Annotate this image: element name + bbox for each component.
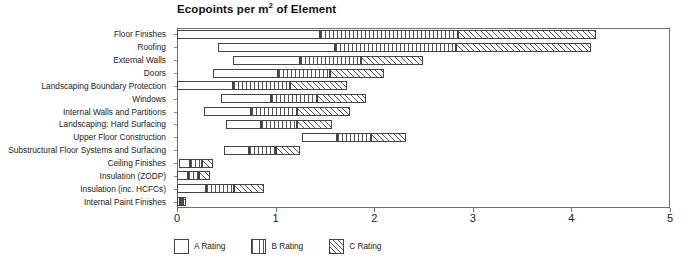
bar-segment-b-rating xyxy=(271,94,317,103)
bar-row xyxy=(177,106,670,119)
y-axis-label: Internal Walls and Partitions xyxy=(63,107,166,117)
bar-row xyxy=(177,42,670,55)
y-axis-label: Substructural Floor Systems and Surfacin… xyxy=(8,145,166,155)
y-axis-label: Insulation (inc. HCFCs) xyxy=(80,184,166,194)
y-axis-label: Landscaping Boundary Protection xyxy=(41,81,166,91)
legend-item: C Rating xyxy=(329,239,381,254)
bar-segment-b-rating xyxy=(335,43,456,52)
bar-segment-a-rating xyxy=(177,30,320,39)
legend-label: B Rating xyxy=(271,241,303,251)
bar-segment-a-rating xyxy=(233,56,300,65)
bar-segment-b-rating xyxy=(261,120,297,129)
x-axis-tick-label: 0 xyxy=(174,212,180,224)
legend-label: A Rating xyxy=(194,241,225,251)
y-axis-label: Insulation (ZODP) xyxy=(100,171,166,181)
y-axis-label: External Walls xyxy=(113,55,166,65)
y-axis-category-labels: Floor FinishesRoofingExternal WallsDoors… xyxy=(0,28,172,208)
bar-segment-c-rating xyxy=(456,43,591,52)
bar-row xyxy=(177,132,670,145)
chart-title: Ecopoints per m2 of Element xyxy=(177,3,336,15)
x-axis-tick-label: 5 xyxy=(667,212,673,224)
bar-segment-b-rating xyxy=(190,159,202,168)
y-axis-label: Doors xyxy=(144,68,166,78)
bar-row xyxy=(177,196,670,209)
bar-segment-b-rating xyxy=(278,69,330,78)
bar-segment-a-rating xyxy=(177,184,206,193)
bar-segment-c-rating xyxy=(290,81,346,90)
legend-label: C Rating xyxy=(349,241,381,251)
bar-segment-c-rating xyxy=(458,30,596,39)
x-axis-tick-label: 2 xyxy=(371,212,377,224)
x-axis-tick-label: 3 xyxy=(470,212,476,224)
bar-segment-b-rating xyxy=(249,146,276,155)
bar-segment-a-rating xyxy=(177,81,233,90)
bar-segment-c-rating xyxy=(234,184,264,193)
bar-row xyxy=(177,145,670,158)
y-axis-label: Windows xyxy=(132,94,166,104)
chart-title-suffix: of Element xyxy=(273,3,336,15)
y-axis-label: Floor Finishes xyxy=(114,29,166,39)
y-axis-label: Landscaping: Hard Surfacing xyxy=(59,119,166,129)
bar-segment-a-rating xyxy=(177,171,188,180)
bar-segment-b-rating xyxy=(320,30,458,39)
chart-legend: A RatingB RatingC Rating xyxy=(174,236,381,256)
a-rating-swatch xyxy=(174,239,189,254)
bar-segment-c-rating xyxy=(361,56,423,65)
bar-row xyxy=(177,119,670,132)
bar-segment-c-rating xyxy=(317,94,366,103)
bar-segment-c-rating xyxy=(297,107,349,116)
bar-segment-a-rating xyxy=(218,43,334,52)
y-axis-label: Internal Paint Finishes xyxy=(84,197,166,207)
bar-segment-a-rating xyxy=(221,94,270,103)
y-axis-label: Ceiling Finishes xyxy=(107,158,166,168)
bar-row xyxy=(177,170,670,183)
bar-segment-c-rating xyxy=(199,171,210,180)
bar-segment-c-rating xyxy=(330,69,384,78)
ecopoints-bar-chart: Ecopoints per m2 of Element Floor Finish… xyxy=(0,0,690,264)
bar-segment-c-rating xyxy=(276,146,301,155)
b-rating-swatch xyxy=(251,239,266,254)
bar-row xyxy=(177,68,670,81)
y-axis-label: Roofing xyxy=(137,42,166,52)
bar-segment-b-rating xyxy=(206,184,235,193)
bar-row xyxy=(177,55,670,68)
bar-row xyxy=(177,80,670,93)
bar-row xyxy=(177,93,670,106)
y-axis-label: Upper Floor Construction xyxy=(73,132,166,142)
bar-segment-b-rating xyxy=(300,56,361,65)
bar-segment-a-rating xyxy=(204,107,251,116)
bar-row xyxy=(177,158,670,171)
bar-segment-a-rating xyxy=(302,133,337,142)
c-rating-swatch xyxy=(329,239,344,254)
bar-row xyxy=(177,183,670,196)
bar-segment-a-rating xyxy=(224,146,249,155)
bar-segment-a-rating xyxy=(226,120,261,129)
chart-title-prefix: Ecopoints per m xyxy=(177,3,269,15)
bar-segment-a-rating xyxy=(179,159,190,168)
bar-segment-a-rating xyxy=(213,69,277,78)
bar-segment-c-rating xyxy=(202,159,214,168)
bar-segment-c-rating xyxy=(183,197,186,206)
bar-segment-c-rating xyxy=(297,120,332,129)
bar-segment-b-rating xyxy=(337,133,372,142)
plot-area xyxy=(177,28,670,208)
legend-item: A Rating xyxy=(174,239,225,254)
bar-segment-b-rating xyxy=(233,81,290,90)
x-axis-tick-label: 4 xyxy=(568,212,574,224)
bar-row xyxy=(177,29,670,42)
legend-item: B Rating xyxy=(251,239,303,254)
bar-segment-c-rating xyxy=(371,133,406,142)
bar-segment-b-rating xyxy=(188,171,199,180)
bar-segment-b-rating xyxy=(251,107,297,116)
x-axis-tick-label: 1 xyxy=(273,212,279,224)
